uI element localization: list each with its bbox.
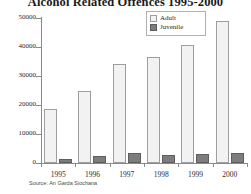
y-axis-label: 50000 (19, 14, 37, 21)
y-axis-label: 30000 (19, 72, 37, 79)
y-axis-label: 20000 (19, 101, 37, 108)
y-axis-label: 10000 (19, 130, 37, 137)
legend-item-adult: Adult (150, 14, 202, 23)
x-axis-tick (110, 163, 111, 167)
legend-swatch-adult-icon (150, 15, 157, 22)
chart-title: Alcohol Related Offences 1995-2000 (0, 0, 251, 10)
bar-group (110, 18, 144, 163)
bar-juvenile-1997 (128, 153, 141, 163)
bar-group (41, 18, 75, 163)
y-axis-label: 0 (33, 159, 37, 166)
bar-adult-1999 (181, 45, 194, 163)
bar-adult-1995 (44, 109, 57, 163)
legend-swatch-juvenile-icon (150, 24, 157, 31)
y-axis-label: 40000 (19, 43, 37, 50)
bar-group (144, 18, 178, 163)
bar-juvenile-2000 (231, 153, 244, 163)
chart-legend: Adult Juvenile (146, 11, 206, 36)
source-note: Source: An Garda Siochana (29, 180, 97, 186)
bar-adult-1998 (147, 57, 160, 163)
bar-group (178, 18, 212, 163)
x-axis-label: 1998 (144, 170, 178, 179)
x-axis-tick (75, 163, 76, 167)
bar-group (213, 18, 247, 163)
x-axis-tick (178, 163, 179, 167)
legend-item-juvenile: Juvenile (150, 23, 202, 32)
x-axis-label: 1996 (75, 170, 109, 179)
chart-container: Alcohol Related Offences 1995-2000 01000… (0, 0, 251, 194)
bar-group (75, 18, 109, 163)
bar-adult-2000 (216, 21, 229, 163)
bar-juvenile-1998 (162, 155, 175, 163)
x-axis-label: 1999 (178, 170, 212, 179)
x-axis-tick (41, 163, 42, 167)
x-axis-label: 1995 (41, 170, 75, 179)
bar-juvenile-1999 (196, 154, 209, 163)
legend-label-juvenile: Juvenile (160, 24, 183, 31)
legend-label-adult: Adult (160, 15, 176, 22)
plot-area (41, 18, 247, 163)
bar-juvenile-1996 (93, 156, 106, 163)
bar-juvenile-1995 (59, 159, 72, 163)
bar-adult-1996 (78, 91, 91, 163)
x-axis-tick (213, 163, 214, 167)
x-axis-tick (247, 163, 248, 167)
x-axis-tick (144, 163, 145, 167)
x-axis-label: 1997 (110, 170, 144, 179)
x-axis-label: 2000 (213, 170, 247, 179)
bar-adult-1997 (113, 64, 126, 163)
